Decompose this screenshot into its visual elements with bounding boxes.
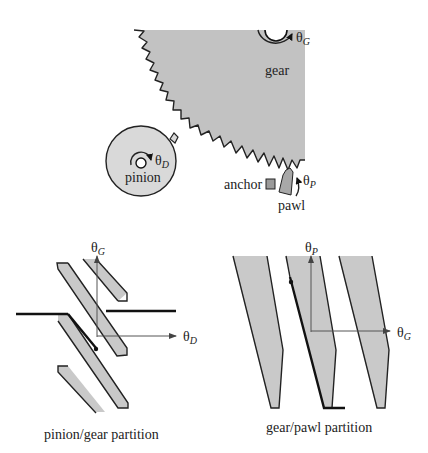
partition-region bbox=[58, 314, 128, 408]
diagram-canvas: θG gear θD pinion anchor θP pawl bbox=[0, 0, 428, 453]
anchor-label: anchor bbox=[224, 177, 262, 192]
pinion-label: pinion bbox=[125, 170, 161, 185]
anchor-block bbox=[266, 179, 275, 189]
partition-point bbox=[289, 280, 293, 284]
partition-point bbox=[94, 347, 98, 351]
y-axis-label: θP bbox=[305, 240, 318, 257]
pinion-tooth bbox=[170, 133, 178, 143]
x-axis-label: θG bbox=[397, 325, 411, 342]
partition-caption: gear/pawl partition bbox=[266, 420, 372, 435]
anchor-pawl: anchor θP pawl bbox=[224, 168, 316, 213]
pinion-gear-partition: θG θD pinion/gear partition bbox=[16, 240, 198, 442]
pawl-rotation-arrow-icon bbox=[296, 178, 299, 196]
pinion: θD pinion bbox=[106, 126, 178, 196]
gear-label: gear bbox=[265, 63, 289, 78]
y-axis-label: θG bbox=[91, 240, 105, 257]
partition-region bbox=[339, 256, 389, 408]
gear-pawl-partition: θP θG gear/pawl partition bbox=[233, 240, 411, 435]
pawl-angle-label: θP bbox=[303, 173, 316, 190]
pinion-hub bbox=[136, 158, 146, 168]
x-axis-label: θD bbox=[183, 329, 198, 346]
pawl-body bbox=[279, 168, 293, 195]
partition-region bbox=[233, 256, 283, 408]
partition-caption: pinion/gear partition bbox=[44, 427, 159, 442]
pawl-label: pawl bbox=[278, 198, 305, 213]
